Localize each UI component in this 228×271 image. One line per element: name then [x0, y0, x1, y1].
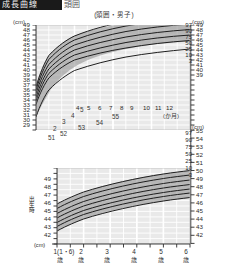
lower-plot	[57, 168, 190, 244]
lower-left-axis	[52, 168, 58, 245]
month-unit-label: (か月)	[163, 113, 179, 120]
page-title: 頭囲	[64, 0, 80, 10]
upper-left-axis	[31, 25, 37, 131]
birth-label: 出生時	[28, 196, 34, 213]
growth-chart-page: 成長曲線 頭囲 (頭囲・男子) (cm) (cm)	[0, 0, 228, 271]
lower-left-unit: (cm)	[34, 242, 45, 248]
chart-subtitle: (頭囲・男子)	[0, 10, 228, 19]
banner-label: 成長曲線	[2, 0, 60, 10]
